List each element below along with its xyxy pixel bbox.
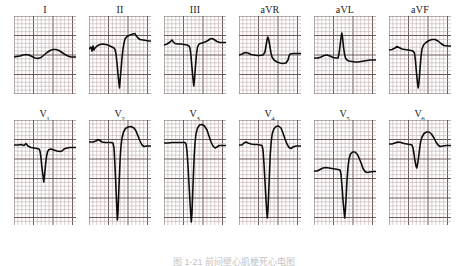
lead-label-avr: aVR [239, 4, 301, 15]
lead-label-avf: aVF [389, 4, 451, 15]
ecg-grid [389, 120, 451, 225]
ecg-panel-v5: V5 [314, 108, 376, 225]
ecg-trace-iii [164, 16, 226, 94]
ecg-panel-v2: V2 [89, 108, 151, 225]
ecg-panel-avf: aVF [389, 4, 451, 94]
ecg-panel-iii: III [164, 4, 226, 94]
ecg-panel-ii: II [89, 4, 151, 94]
ecg-trace-avf [389, 16, 451, 94]
ecg-trace-v6 [389, 120, 451, 225]
ecg-panel-i: I [14, 4, 76, 94]
ecg-panel-avl: aVL [314, 4, 376, 94]
ecg-trace-v5 [314, 120, 376, 225]
lead-label-i: I [14, 4, 76, 15]
ecg-trace-i [14, 16, 76, 94]
ecg-trace-ii [89, 16, 151, 94]
lead-label-base: aVL [336, 4, 354, 15]
ecg-panel-v3: V3 [164, 108, 226, 225]
ecg-panel-v1: V1 [14, 108, 76, 225]
ecg-grid [389, 16, 451, 94]
lead-label-base: II [116, 4, 123, 15]
ecg-trace-v1 [14, 120, 76, 225]
ecg-trace-avr [239, 16, 301, 94]
lead-label-ii: II [89, 4, 151, 15]
ecg-panel-avr: aVR [239, 4, 301, 94]
ecg-trace-v2 [89, 120, 151, 225]
lead-label-base: aVF [411, 4, 429, 15]
ecg-row-precordial-leads: V1V2V3V4V5V6 [0, 108, 468, 248]
lead-label-avl: aVL [314, 4, 376, 15]
ecg-panel-v6: V6 [389, 108, 451, 225]
lead-label-iii: III [164, 4, 226, 15]
ecg-trace-v4 [239, 120, 301, 225]
lead-label-base: aVR [261, 4, 280, 15]
figure-caption: 图 1-21 前间壁心肌梗死心电图 [0, 257, 468, 266]
lead-label-base: III [190, 4, 201, 15]
ecg-trace-avl [314, 16, 376, 94]
ecg-row-limb-leads: IIIIIIaVRaVLaVF [0, 4, 468, 108]
ecg-grid [164, 120, 226, 225]
ecg-trace-v3 [164, 120, 226, 225]
lead-label-base: I [43, 4, 47, 15]
ecg-panel-v4: V4 [239, 108, 301, 225]
ecg-grid [239, 16, 301, 94]
ecg-grid [164, 16, 226, 94]
